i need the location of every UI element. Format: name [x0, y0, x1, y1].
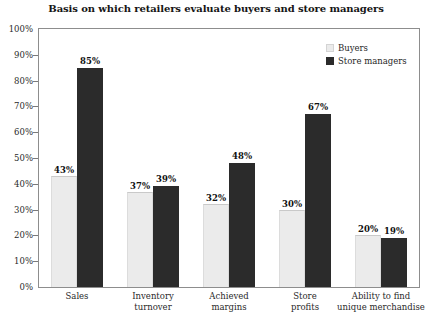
bar-group: 37%39%	[127, 29, 179, 287]
legend-swatch-icon	[326, 44, 334, 52]
bar-buyers[interactable]: 32%	[203, 204, 229, 287]
y-axis-tick-label: 70%	[0, 101, 33, 111]
legend-item-buyers[interactable]: Buyers	[326, 41, 422, 54]
y-axis-tick-label: 30%	[0, 205, 33, 215]
legend-label: Buyers	[338, 43, 368, 53]
y-axis-tick-label: 50%	[0, 153, 33, 163]
y-axis: 100%90%80%70%60%50%40%30%20%10%0%	[0, 28, 33, 288]
bar-store-managers[interactable]: 67%	[305, 114, 331, 287]
bar-value-label: 85%	[80, 56, 100, 66]
bar-group: 30%67%	[279, 29, 331, 287]
y-axis-tick-label: 100%	[0, 24, 33, 34]
chart-title: Basis on which retailers evaluate buyers…	[0, 3, 432, 14]
bar-buyers[interactable]: 20%	[355, 235, 381, 287]
x-axis-category-label: Ability to findunique merchandise	[335, 291, 427, 312]
y-axis-tick-label: 20%	[0, 230, 33, 240]
bar-group: 20%19%	[355, 29, 407, 287]
bar-value-label: 39%	[156, 174, 176, 184]
bar-value-label: 30%	[282, 199, 302, 209]
bar-store-managers[interactable]: 39%	[153, 186, 179, 287]
bar-buyers[interactable]: 37%	[127, 192, 153, 287]
bar-value-label: 19%	[384, 226, 404, 236]
bar-value-label: 43%	[54, 165, 74, 175]
bar-value-label: 48%	[232, 151, 252, 161]
y-axis-tick-label: 60%	[0, 127, 33, 137]
x-axis-category-line: unique merchandise	[335, 302, 427, 313]
bar-value-label: 32%	[206, 193, 226, 203]
x-axis: SalesInventoryturnoverAchievedmarginsSto…	[39, 291, 419, 318]
legend-item-store-managers[interactable]: Store managers	[326, 54, 422, 67]
legend-label: Store managers	[338, 56, 407, 66]
bar-buyers[interactable]: 43%	[51, 176, 77, 287]
legend: BuyersStore managers	[326, 41, 422, 67]
bar-value-label: 67%	[308, 102, 328, 112]
y-axis-tick-label: 80%	[0, 76, 33, 86]
y-axis-tick-label: 0%	[0, 282, 33, 292]
y-axis-tick-label: 90%	[0, 50, 33, 60]
bar-buyers[interactable]: 30%	[279, 210, 305, 287]
legend-swatch-icon	[326, 57, 334, 65]
bar-store-managers[interactable]: 19%	[381, 238, 407, 287]
bar-store-managers[interactable]: 85%	[77, 68, 103, 287]
bar-group: 43%85%	[51, 29, 103, 287]
bar-value-label: 37%	[130, 181, 150, 191]
x-axis-category-line: Ability to find	[335, 291, 427, 302]
bar-value-label: 20%	[358, 224, 378, 234]
y-axis-tick-label: 40%	[0, 179, 33, 189]
y-axis-tick-label: 10%	[0, 256, 33, 266]
bars-layer: 43%85%37%39%32%48%30%67%20%19%	[39, 29, 419, 287]
bar-group: 32%48%	[203, 29, 255, 287]
bar-store-managers[interactable]: 48%	[229, 163, 255, 287]
bar-chart: Basis on which retailers evaluate buyers…	[0, 0, 432, 318]
